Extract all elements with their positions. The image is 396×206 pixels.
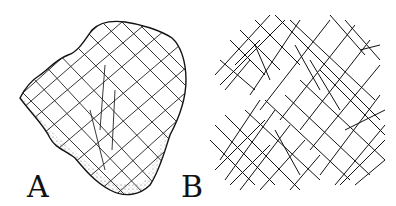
- panel-b-tracing: [210, 15, 385, 190]
- figure: A B: [0, 0, 396, 206]
- panel-label-a: A: [27, 172, 49, 202]
- panel-label-b: B: [181, 172, 203, 202]
